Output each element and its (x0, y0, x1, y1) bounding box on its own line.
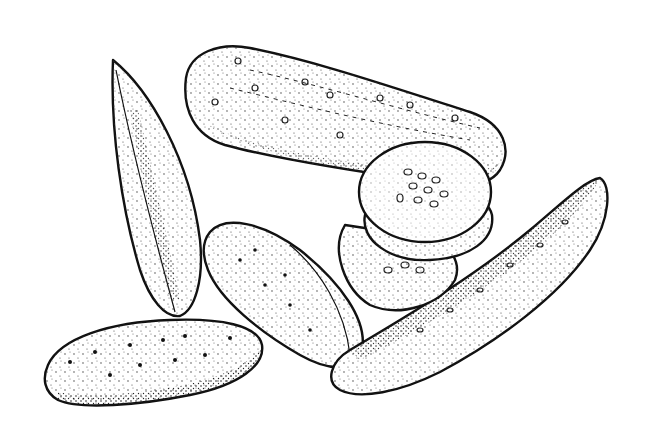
pickle-illustration (0, 0, 651, 437)
pickle-half-bottom-left (45, 320, 262, 406)
